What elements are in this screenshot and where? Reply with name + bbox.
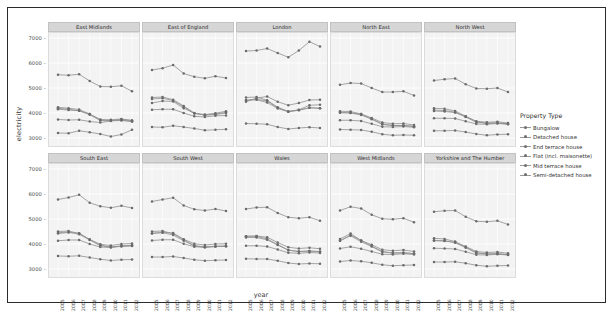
- legend-item-label: Flat (incl. maisonette): [533, 153, 592, 159]
- legend-item-mid-terrace-house[interactable]: Mid terrace house: [520, 161, 604, 171]
- x-tick-2010: 2010: [301, 299, 306, 311]
- x-tick-group: 20052006200720082009201020112012: [330, 281, 422, 311]
- facet-row-bottom: South EastSouth WestWalesWest MidlandsYo…: [48, 153, 516, 278]
- legend-key-icon: [520, 171, 531, 180]
- x-tick-group: 20052006200720082009201020112012: [142, 281, 234, 311]
- facet-strip-label: East Midlands: [48, 22, 140, 32]
- x-tick-2011: 2011: [123, 299, 128, 311]
- facet-panel: [424, 32, 516, 147]
- legend-key-icon: [520, 152, 531, 161]
- x-tick-2008: 2008: [468, 299, 473, 311]
- facet-row-top: East MidlandsEast of EnglandLondonNorth …: [48, 22, 516, 147]
- x-tick-2010: 2010: [113, 299, 118, 311]
- facet-north-east: North East: [330, 22, 422, 147]
- legend-item-label: Mid terrace house: [533, 163, 582, 169]
- chart-frame: electricity year 7000 –6000 –5000 –4000 …: [7, 7, 606, 303]
- x-tick-2009: 2009: [196, 299, 201, 311]
- x-tick-2007: 2007: [457, 299, 462, 311]
- x-tick-2009: 2009: [478, 299, 483, 311]
- facet-plot-area: electricity year 7000 –6000 –5000 –4000 …: [8, 8, 514, 301]
- x-axis-tick-labels: 2005200620072008200920102011201220052006…: [48, 281, 516, 311]
- legend-item-semi-detached-house[interactable]: Semi-detached house: [520, 171, 604, 181]
- x-tick-2010: 2010: [489, 299, 494, 311]
- x-tick-2005: 2005: [154, 299, 159, 311]
- x-tick-2010: 2010: [207, 299, 212, 311]
- legend-key-icon: [520, 142, 531, 151]
- facet-london: London: [236, 22, 328, 147]
- x-tick-2012: 2012: [510, 299, 515, 311]
- legend-item-flat-incl-maisonette-[interactable]: Flat (incl. maisonette): [520, 152, 604, 162]
- x-tick-2008: 2008: [280, 299, 285, 311]
- x-tick-2006: 2006: [447, 299, 452, 311]
- x-tick-2007: 2007: [363, 299, 368, 311]
- legend-items: BungalowDetached houseEnd terrace houseF…: [520, 123, 604, 180]
- x-tick-2006: 2006: [165, 299, 170, 311]
- x-tick-2012: 2012: [322, 299, 327, 311]
- x-tick-2007: 2007: [81, 299, 86, 311]
- y-tick-7000: 7000 –: [29, 166, 46, 172]
- x-tick-2005: 2005: [60, 299, 65, 311]
- facet-south-east: South East: [48, 153, 140, 278]
- x-tick-2008: 2008: [186, 299, 191, 311]
- x-tick-2006: 2006: [71, 299, 76, 311]
- facet-yorkshire-and-the-humber: Yorkshire and The Humber: [424, 153, 516, 278]
- y-tick-3000: 3000 –: [29, 135, 46, 141]
- x-tick-2012: 2012: [228, 299, 233, 311]
- facet-panel: [236, 163, 328, 278]
- legend-item-detached-house[interactable]: Detached house: [520, 133, 604, 143]
- facet-strip-label: Wales: [236, 153, 328, 163]
- facet-strip-label: South East: [48, 153, 140, 163]
- y-tick-6000: 6000 –: [29, 60, 46, 66]
- x-tick-2009: 2009: [384, 299, 389, 311]
- x-tick-2012: 2012: [416, 299, 421, 311]
- legend-key-icon: [520, 161, 531, 170]
- x-tick-2011: 2011: [405, 299, 410, 311]
- legend: Property Type BungalowDetached houseEnd …: [520, 112, 604, 180]
- legend-item-label: End terrace house: [533, 144, 582, 150]
- x-tick-2007: 2007: [269, 299, 274, 311]
- x-tick-group: 20052006200720082009201020112012: [236, 281, 328, 311]
- facet-west-midlands: West Midlands: [330, 153, 422, 278]
- facet-panel: [142, 163, 234, 278]
- facet-panel: [142, 32, 234, 147]
- y-tick-4000: 4000 –: [29, 241, 46, 247]
- x-tick-2008: 2008: [92, 299, 97, 311]
- legend-item-label: Semi-detached house: [533, 172, 592, 178]
- facet-strip-label: South West: [142, 153, 234, 163]
- x-tick-2009: 2009: [102, 299, 107, 311]
- facet-wales: Wales: [236, 153, 328, 278]
- facet-strip-label: East of England: [142, 22, 234, 32]
- facet-strip-label: West Midlands: [330, 153, 422, 163]
- facet-strip-label: North East: [330, 22, 422, 32]
- legend-item-label: Bungalow: [533, 125, 559, 131]
- x-tick-2012: 2012: [134, 299, 139, 311]
- facet-strip-label: Yorkshire and The Humber: [424, 153, 516, 163]
- y-tick-4000: 4000 –: [29, 110, 46, 116]
- legend-item-bungalow[interactable]: Bungalow: [520, 123, 604, 133]
- facet-east-midlands: East Midlands: [48, 22, 140, 147]
- x-tick-2011: 2011: [217, 299, 222, 311]
- x-tick-2009: 2009: [290, 299, 295, 311]
- facet-panel: [236, 32, 328, 147]
- legend-item-end-terrace-house[interactable]: End terrace house: [520, 142, 604, 152]
- x-tick-2006: 2006: [353, 299, 358, 311]
- x-tick-2005: 2005: [248, 299, 253, 311]
- x-tick-2008: 2008: [374, 299, 379, 311]
- y-tick-5000: 5000 –: [29, 216, 46, 222]
- legend-key-icon: [520, 123, 531, 132]
- x-tick-2011: 2011: [499, 299, 504, 311]
- facet-strip-label: London: [236, 22, 328, 32]
- x-tick-2006: 2006: [259, 299, 264, 311]
- facet-panel: [330, 32, 422, 147]
- legend-title: Property Type: [520, 112, 604, 119]
- facet-panel: [48, 163, 140, 278]
- facet-panel: [48, 32, 140, 147]
- facet-strip-label: North West: [424, 22, 516, 32]
- facet-south-west: South West: [142, 153, 234, 278]
- y-tick-7000: 7000 –: [29, 35, 46, 41]
- x-tick-2005: 2005: [342, 299, 347, 311]
- facet-panel: [424, 163, 516, 278]
- facet-north-west: North West: [424, 22, 516, 147]
- x-tick-2010: 2010: [395, 299, 400, 311]
- facet-east-of-england: East of England: [142, 22, 234, 147]
